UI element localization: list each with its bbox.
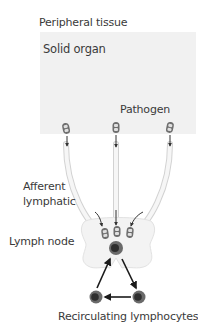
pathogen-label: Pathogen [120,103,170,116]
pathogen-icon [113,122,120,133]
pathogen-icon [165,121,174,133]
pathogen-icon [114,226,121,237]
lymph-node-label: Lymph node [9,235,74,248]
recirculating-lymphocytes-label: Recirculating lymphocytes [58,310,198,323]
peripheral-tissue-label: Peripheral tissue [39,16,127,29]
lymphocyte-icon [133,291,146,304]
afferent-lymphatic-label-line1: Afferent [23,180,65,193]
pathogen-icon [62,122,71,134]
afferent-lymphatic-label-line2: lymphatic [23,195,76,208]
solid-organ-label: Solid organ [43,43,106,56]
lymphocyte-icon [90,291,103,304]
lymphocyte-icon [109,241,123,255]
